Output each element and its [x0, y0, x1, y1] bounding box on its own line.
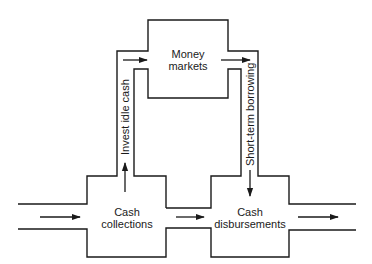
cash-collections-label: Cash collections — [92, 206, 162, 230]
short-term-borrowing-label: Short-term borrowing — [244, 63, 256, 166]
cash-collections-line2: collections — [92, 218, 162, 230]
invest-idle-cash-label: Invest idle cash — [119, 79, 131, 155]
cash-disbursements-line1: Cash — [212, 206, 288, 218]
cash-disbursements-line2: disbursements — [212, 218, 288, 230]
cash-disbursements-label: Cash disbursements — [212, 206, 288, 230]
inlet-pipe-bottom — [18, 228, 356, 257]
pipe-network — [0, 0, 372, 264]
cash-collections-line1: Cash — [92, 206, 162, 218]
cash-flow-diagram: Money markets Cash collections Cash disb… — [0, 0, 372, 264]
money-markets-line2: markets — [158, 60, 218, 72]
money-markets-line1: Money — [158, 48, 218, 60]
money-markets-label: Money markets — [158, 48, 218, 72]
invest-channel-inner — [134, 69, 241, 208]
